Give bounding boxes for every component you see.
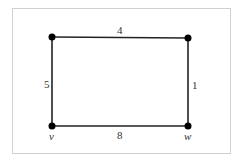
edge-weight-bottom: 8 bbox=[117, 130, 123, 141]
vertex-label-w: w bbox=[184, 131, 191, 142]
vertex-top-right bbox=[185, 35, 192, 42]
edge-top bbox=[52, 37, 188, 38]
vertex-v bbox=[49, 123, 56, 130]
edge-weight-top: 4 bbox=[117, 25, 123, 36]
vertex-w bbox=[185, 123, 192, 130]
edge-weight-right: 1 bbox=[192, 80, 198, 91]
vertex-label-v: v bbox=[49, 131, 54, 142]
vertex-top-left bbox=[49, 34, 56, 41]
edge-weight-left: 5 bbox=[44, 79, 50, 90]
